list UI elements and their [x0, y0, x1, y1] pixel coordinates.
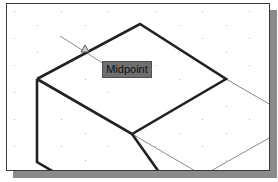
- object-lines[interactable]: [37, 24, 226, 170]
- snap-tooltip: Midpoint: [102, 61, 152, 78]
- midpoint-triangle-icon: [81, 45, 89, 52]
- drawing-canvas[interactable]: [7, 4, 269, 170]
- drawing-viewport[interactable]: Midpoint: [6, 3, 270, 171]
- thin-lines: [60, 36, 269, 170]
